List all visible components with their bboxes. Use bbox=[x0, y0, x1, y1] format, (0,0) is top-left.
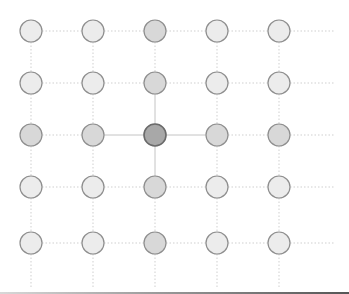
grid-node bbox=[82, 20, 104, 42]
grid-node bbox=[20, 124, 42, 146]
grid-node bbox=[144, 176, 166, 198]
grid-node bbox=[206, 72, 228, 94]
grid-node bbox=[82, 72, 104, 94]
grid-node bbox=[268, 124, 290, 146]
center-node bbox=[144, 124, 166, 146]
grid-node bbox=[206, 232, 228, 254]
grid-node bbox=[206, 20, 228, 42]
grid-node bbox=[206, 124, 228, 146]
grid-node bbox=[82, 124, 104, 146]
grid-node bbox=[268, 72, 290, 94]
grid-node bbox=[144, 232, 166, 254]
grid-node bbox=[82, 176, 104, 198]
grid-node bbox=[144, 20, 166, 42]
grid-node bbox=[20, 176, 42, 198]
grid-node bbox=[268, 232, 290, 254]
grid-node bbox=[20, 72, 42, 94]
lattice-diagram bbox=[0, 0, 349, 294]
grid-node bbox=[82, 232, 104, 254]
grid-node bbox=[268, 176, 290, 198]
grid-node bbox=[20, 20, 42, 42]
grid-node bbox=[206, 176, 228, 198]
grid-node bbox=[144, 72, 166, 94]
grid-node bbox=[20, 232, 42, 254]
grid-node bbox=[268, 20, 290, 42]
